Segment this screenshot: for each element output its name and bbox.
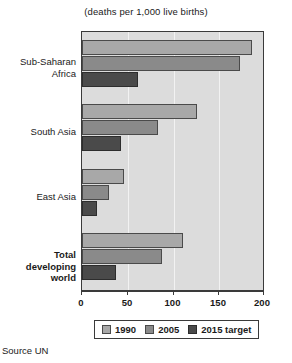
tick-mark-150	[218, 291, 219, 295]
chart-legend: 1990 2005 2015 target	[94, 320, 259, 339]
category-label-south-asia: South Asia	[0, 126, 76, 138]
bar-1990-total-developing-world[interactable]	[82, 233, 183, 248]
chart-title: (deaths per 1,000 live births)	[0, 6, 292, 17]
mortality-bar-chart: (deaths per 1,000 live births)	[0, 0, 292, 363]
legend-swatch-icon-2015-target	[188, 325, 197, 334]
category-label-line: South Asia	[0, 126, 76, 138]
tick-label-50: 50	[122, 297, 133, 308]
legend-swatch-icon-1990	[102, 325, 111, 334]
category-label-line: developing	[0, 261, 76, 273]
tick-label-100: 100	[165, 297, 181, 308]
bar-2005-east-asia[interactable]	[82, 185, 109, 200]
bar-2015-target-sub-saharan-africa[interactable]	[82, 72, 138, 87]
bar-2015-target-east-asia[interactable]	[82, 201, 97, 216]
legend-swatch-icon-2005	[145, 325, 154, 334]
tick-label-0: 0	[78, 297, 83, 308]
bar-1990-sub-saharan-africa[interactable]	[82, 40, 252, 55]
legend-label-2005: 2005	[158, 324, 179, 335]
category-label-sub-saharan-africa: Sub-Saharan Africa	[0, 56, 76, 79]
legend-label-1990: 1990	[115, 324, 136, 335]
legend-item-2015-target[interactable]: 2015 target	[188, 324, 251, 335]
bar-2015-target-south-asia[interactable]	[82, 136, 121, 151]
tick-label-200: 200	[254, 297, 270, 308]
category-label-line: Africa	[0, 68, 76, 80]
tick-mark-0	[81, 291, 82, 295]
category-label-line: Total	[0, 249, 76, 261]
legend-item-1990[interactable]: 1990	[102, 324, 136, 335]
tick-mark-100	[173, 291, 174, 295]
bar-group-east-asia	[82, 169, 263, 217]
bar-2005-sub-saharan-africa[interactable]	[82, 56, 240, 71]
bar-2005-total-developing-world[interactable]	[82, 249, 162, 264]
category-label-line: Sub-Saharan	[0, 56, 76, 68]
bar-1990-east-asia[interactable]	[82, 169, 124, 184]
bar-group-sub-saharan-africa	[82, 40, 263, 88]
category-label-line: East Asia	[0, 191, 76, 203]
category-label-total-developing-world: Total developing world	[0, 249, 76, 284]
source-note: Source UN	[2, 345, 48, 356]
category-label-line: world	[0, 272, 76, 284]
bar-1990-south-asia[interactable]	[82, 104, 197, 119]
bar-2005-south-asia[interactable]	[82, 120, 158, 135]
plot-area	[81, 31, 264, 291]
bar-2015-target-total-developing-world[interactable]	[82, 265, 116, 280]
tick-label-150: 150	[210, 297, 226, 308]
bar-group-total-developing-world	[82, 233, 263, 281]
category-label-east-asia: East Asia	[0, 191, 76, 203]
tick-mark-200	[263, 291, 264, 295]
legend-item-2005[interactable]: 2005	[145, 324, 179, 335]
tick-mark-50	[127, 291, 128, 295]
bar-group-south-asia	[82, 104, 263, 152]
legend-label-2015-target: 2015 target	[201, 324, 251, 335]
